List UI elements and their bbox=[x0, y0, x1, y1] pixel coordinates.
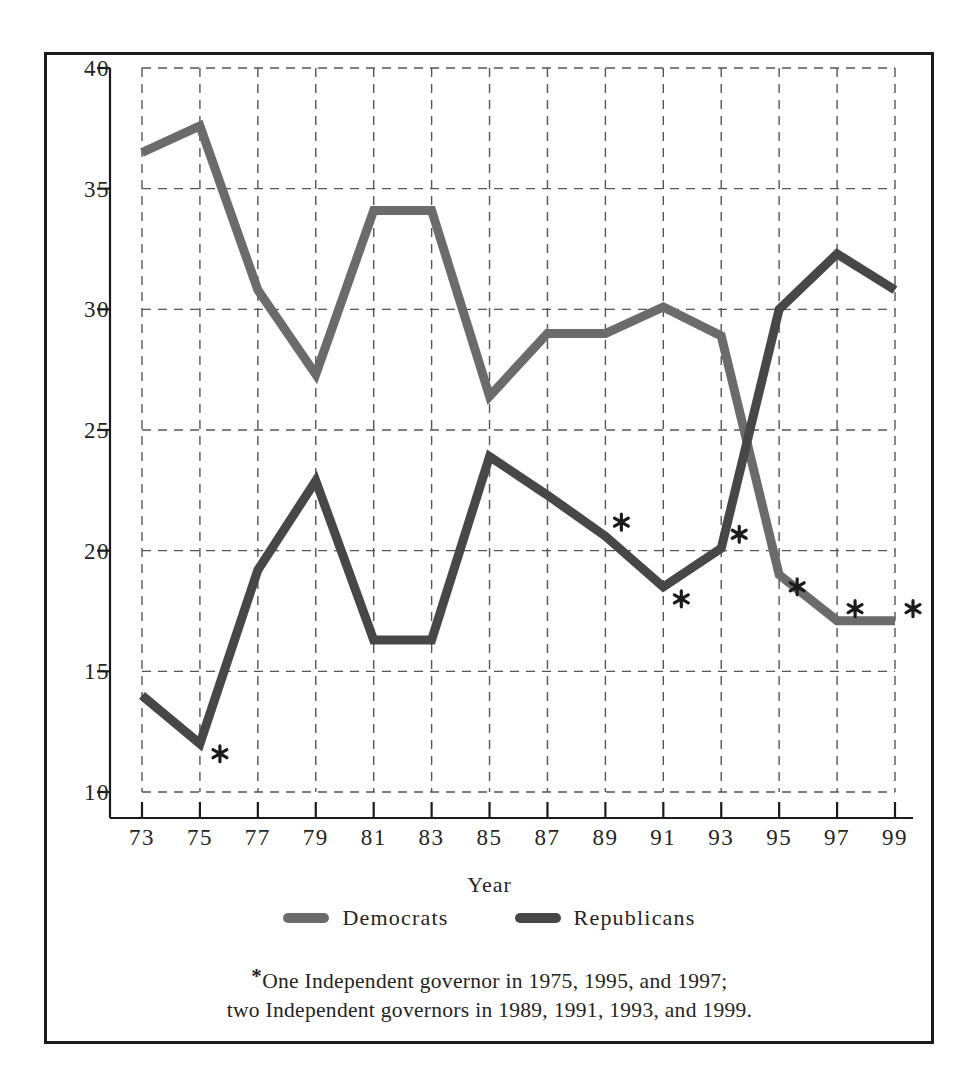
x-tick-label: 85 bbox=[460, 826, 520, 849]
x-tick-label: 99 bbox=[865, 826, 925, 849]
gridlines bbox=[142, 68, 895, 792]
y-tick-label: 10 bbox=[64, 781, 110, 804]
legend-item-republicans: Republicans bbox=[515, 905, 696, 931]
legend-swatch-republicans bbox=[515, 913, 561, 923]
x-tick-label: 73 bbox=[112, 826, 172, 849]
chart-legend: Democrats Republicans bbox=[0, 905, 979, 931]
y-tick-label: 35 bbox=[64, 177, 110, 200]
x-tick-label: 91 bbox=[633, 826, 693, 849]
legend-item-democrats: Democrats bbox=[283, 905, 448, 931]
chart-footnote: *One Independent governor in 1975, 1995,… bbox=[0, 962, 979, 1025]
x-tick-label: 77 bbox=[228, 826, 288, 849]
legend-label-democrats: Democrats bbox=[342, 905, 448, 931]
x-tick-label: 89 bbox=[575, 826, 635, 849]
y-tick-label: 15 bbox=[64, 660, 110, 683]
legend-label-republicans: Republicans bbox=[574, 905, 696, 931]
footnote-line-2: two Independent governors in 1989, 1991,… bbox=[0, 996, 979, 1025]
x-tick-label: 79 bbox=[286, 826, 346, 849]
footnote-line-1: *One Independent governor in 1975, 1995,… bbox=[0, 962, 979, 996]
x-tick-label: 97 bbox=[807, 826, 867, 849]
x-tick-label: 75 bbox=[170, 826, 230, 849]
y-tick-label: 25 bbox=[64, 419, 110, 442]
x-axis-tick-labels: 7375777981838587899193959799 bbox=[0, 826, 979, 866]
x-tick-label: 93 bbox=[691, 826, 751, 849]
asterisk-icon: * bbox=[251, 964, 262, 988]
legend-swatch-democrats bbox=[283, 913, 329, 923]
y-tick-label: 40 bbox=[64, 57, 110, 80]
y-tick-label: 20 bbox=[64, 539, 110, 562]
data-series bbox=[142, 126, 895, 744]
x-tick-label: 83 bbox=[402, 826, 462, 849]
x-tick-label: 81 bbox=[344, 826, 404, 849]
y-tick-label: 30 bbox=[64, 298, 110, 321]
x-tick-label: 87 bbox=[517, 826, 577, 849]
footnote-text-1: One Independent governor in 1975, 1995, … bbox=[262, 969, 728, 993]
x-axis-title: Year bbox=[0, 872, 979, 898]
x-tick-label: 95 bbox=[749, 826, 809, 849]
